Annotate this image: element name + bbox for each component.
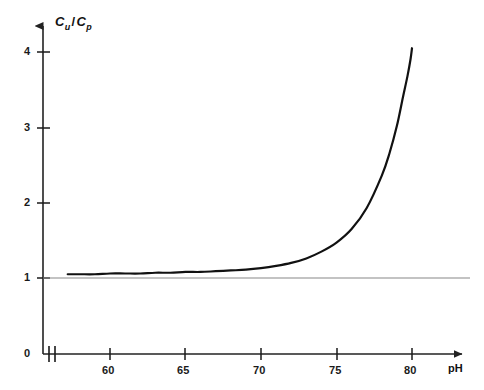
chart-figure: 4 3 2 1 0 60 65 70 75 80 Cu/Cp pH	[0, 0, 484, 390]
y-axis-title-denominator-base: C	[76, 14, 86, 29]
data-series-curve	[68, 48, 412, 274]
x-tick-label-70: 70	[253, 364, 266, 376]
y-axis-title: Cu/Cp	[55, 14, 92, 32]
x-tick-label-75: 75	[329, 364, 342, 376]
y-tick-label-4: 4	[24, 45, 30, 57]
y-tick-label-3: 3	[24, 121, 30, 133]
x-tick-label-60: 60	[102, 364, 115, 376]
y-tick-label-1: 1	[24, 271, 30, 283]
x-axis-title: pH	[448, 362, 463, 374]
y-axis-title-denominator-sub: p	[86, 22, 92, 32]
chart-plot-area	[0, 0, 484, 390]
origin-label-0: 0	[24, 347, 30, 359]
x-tick-label-80: 80	[404, 364, 417, 376]
y-tick-label-2: 2	[24, 196, 30, 208]
y-axis-title-numerator-base: C	[55, 14, 65, 29]
x-tick-label-65: 65	[177, 364, 190, 376]
y-axis-title-numerator-sub: u	[65, 22, 71, 32]
